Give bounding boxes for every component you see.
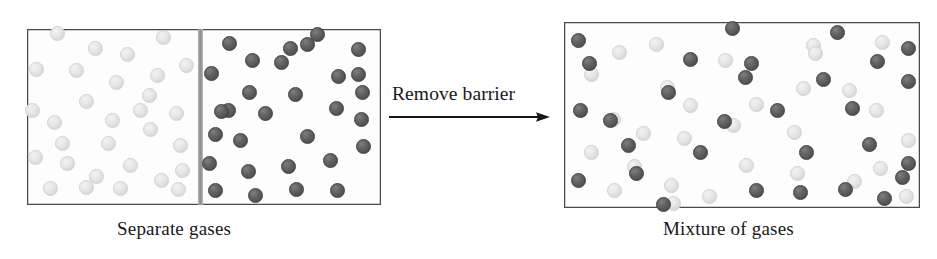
dark-gas-particle	[770, 103, 785, 118]
dark-gas-particle	[202, 156, 217, 171]
light-gas-particle	[677, 131, 692, 146]
light-gas-particle	[739, 158, 754, 173]
dark-gas-particle	[233, 133, 248, 148]
light-gas-particle	[175, 163, 190, 178]
dark-gas-particle	[603, 113, 618, 128]
light-gas-particle	[873, 161, 888, 176]
dark-gas-particle	[300, 129, 315, 144]
light-gas-particle	[787, 125, 802, 140]
dark-gas-particle	[877, 191, 892, 206]
light-gas-particle	[123, 158, 138, 173]
light-gas-particle	[150, 68, 165, 83]
dark-gas-particle	[793, 185, 808, 200]
light-gas-particle	[88, 41, 103, 56]
dark-gas-particle	[274, 55, 289, 70]
dark-gas-particle	[351, 67, 366, 82]
light-gas-particle	[649, 37, 664, 52]
dark-gas-particle	[214, 104, 229, 119]
barrier-divider	[198, 29, 203, 205]
light-gas-particle	[607, 183, 622, 198]
light-gas-particle	[50, 26, 65, 41]
dark-gas-particle	[351, 42, 366, 57]
dark-gas-particle	[621, 138, 636, 153]
dark-gas-particle	[245, 53, 260, 68]
dark-gas-particle	[725, 21, 740, 36]
light-gas-particle	[749, 97, 764, 112]
dark-gas-particle	[222, 36, 237, 51]
dark-gas-particle	[656, 197, 671, 212]
light-gas-particle	[156, 30, 171, 45]
light-gas-particle	[173, 138, 188, 153]
light-gas-particle	[69, 63, 84, 78]
dark-gas-particle	[355, 85, 370, 100]
dark-gas-particle	[717, 114, 732, 129]
light-gas-particle	[842, 83, 857, 98]
dark-gas-particle	[573, 103, 588, 118]
figure-canvas: Remove barrier Separate gases Mixture of…	[0, 0, 937, 259]
dark-gas-particle	[901, 156, 916, 171]
dark-gas-particle	[830, 25, 845, 40]
dark-gas-particle	[749, 183, 764, 198]
dark-gas-particle	[693, 145, 708, 160]
dark-gas-particle	[799, 145, 814, 160]
dark-gas-particle	[208, 183, 223, 198]
light-gas-particle	[702, 189, 717, 204]
caption-separate-gases: Separate gases	[117, 218, 231, 240]
light-gas-particle	[43, 181, 58, 196]
dark-gas-particle	[629, 166, 644, 181]
light-gas-particle	[109, 75, 124, 90]
dark-gas-particle	[816, 72, 831, 87]
light-gas-particle	[683, 98, 698, 113]
light-gas-particle	[169, 106, 184, 121]
light-gas-particle	[105, 113, 120, 128]
dark-gas-particle	[283, 41, 298, 56]
dark-gas-particle	[738, 70, 753, 85]
dark-gas-particle	[838, 182, 853, 197]
light-gas-particle	[25, 103, 40, 118]
light-gas-particle	[120, 47, 135, 62]
light-gas-particle	[47, 115, 62, 130]
dark-gas-particle	[281, 159, 296, 174]
dark-gas-particle	[895, 170, 910, 185]
dark-gas-particle	[870, 54, 885, 69]
light-gas-particle	[901, 133, 916, 148]
dark-gas-particle	[323, 153, 338, 168]
dark-gas-particle	[571, 33, 586, 48]
dark-gas-particle	[208, 127, 223, 142]
light-gas-particle	[79, 94, 94, 109]
light-gas-particle	[796, 81, 811, 96]
light-gas-particle	[101, 136, 116, 151]
dark-gas-particle	[331, 69, 346, 84]
light-gas-particle	[664, 178, 679, 193]
light-gas-particle	[718, 53, 733, 68]
light-gas-particle	[28, 150, 43, 165]
dark-gas-particle	[683, 52, 698, 67]
remove-barrier-label: Remove barrier	[392, 83, 515, 105]
light-gas-particle	[133, 103, 148, 118]
dark-gas-particle	[354, 112, 369, 127]
light-gas-particle	[113, 181, 128, 196]
light-gas-particle	[55, 136, 70, 151]
light-gas-particle	[875, 35, 890, 50]
light-gas-particle	[808, 46, 823, 61]
dark-gas-particle	[241, 164, 256, 179]
light-gas-particle	[142, 88, 157, 103]
dark-gas-particle	[862, 137, 877, 152]
dark-gas-particle	[329, 101, 344, 116]
dark-gas-particle	[288, 87, 303, 102]
dark-gas-particle	[300, 37, 315, 52]
light-gas-particle	[584, 145, 599, 160]
dark-gas-particle	[845, 101, 860, 116]
light-gas-particle	[154, 173, 169, 188]
dark-gas-particle	[242, 85, 257, 100]
light-gas-particle	[636, 126, 651, 141]
light-gas-particle	[143, 122, 158, 137]
dark-gas-particle	[582, 56, 597, 71]
dark-gas-particle	[901, 74, 916, 89]
dark-gas-particle	[330, 183, 345, 198]
light-gas-particle	[899, 189, 914, 204]
dark-gas-particle	[289, 182, 304, 197]
separate-gases-container	[27, 29, 381, 205]
dark-gas-particle	[248, 188, 263, 203]
light-gas-particle	[171, 182, 186, 197]
